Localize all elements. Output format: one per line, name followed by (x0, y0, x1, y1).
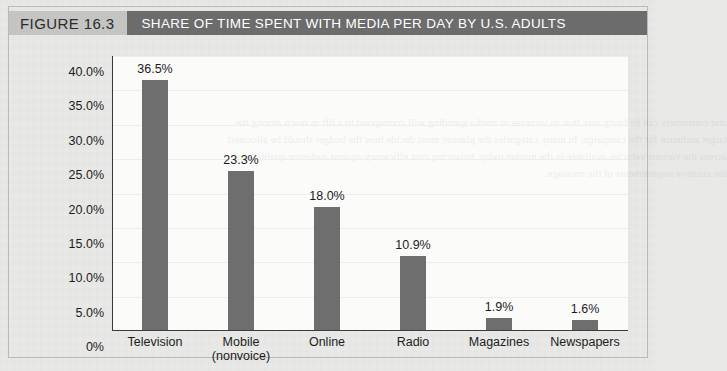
category-label: Magazines (469, 335, 529, 349)
category-label-line: Mobile (223, 335, 260, 349)
bar[interactable] (314, 207, 340, 331)
chart-area: 40.0%35.0%30.0%25.0%20.0%15.0%10.0%5.0%0… (9, 40, 647, 356)
category-label-line: Television (128, 335, 183, 349)
category-label-line: Radio (397, 335, 430, 349)
bar-value-label: 1.9% (485, 300, 514, 314)
plot-area: and consumers can be fairly sure that an… (112, 56, 628, 331)
bar-value-label: 18.0% (309, 189, 344, 203)
category-label-line: Magazines (469, 335, 529, 349)
x-axis-line (112, 330, 628, 331)
category-label: Newspapers (550, 335, 619, 349)
y-axis-tick-label: 5.0% (9, 306, 108, 320)
bar-value-label: 36.5% (137, 62, 172, 76)
bar[interactable] (400, 256, 426, 331)
y-axis-tick-label: 0% (9, 340, 108, 354)
figure-header: FIGURE 16.3 SHARE OF TIME SPENT WITH MED… (9, 11, 647, 35)
bar[interactable] (228, 171, 254, 331)
category-label: Television (128, 335, 183, 349)
category-label-line: (nonvoice) (212, 349, 270, 363)
bar-value-label: 23.3% (223, 153, 258, 167)
figure-number-badge: FIGURE 16.3 (9, 11, 127, 35)
category-label-line: Newspapers (550, 335, 619, 349)
y-axis-tick-label: 15.0% (9, 237, 108, 251)
bar-value-label: 10.9% (395, 238, 430, 252)
bars-layer: 36.5%23.3%18.0%10.9%1.9%1.6% (112, 56, 628, 331)
y-axis-tick-label: 35.0% (9, 99, 108, 113)
y-axis-tick-label: 25.0% (9, 168, 108, 182)
y-axis-tick-label: 20.0% (9, 203, 108, 217)
bar-value-label: 1.6% (571, 302, 600, 316)
figure-title: SHARE OF TIME SPENT WITH MEDIA PER DAY B… (127, 11, 647, 35)
bar[interactable] (142, 80, 168, 331)
category-label: Radio (397, 335, 430, 349)
y-axis-tick-label: 10.0% (9, 271, 108, 285)
y-axis-tick-labels: 40.0%35.0%30.0%25.0%20.0%15.0%10.0%5.0%0… (9, 56, 108, 331)
category-label: Mobile(nonvoice) (212, 335, 270, 363)
x-axis-category-labels: TelevisionMobile(nonvoice)OnlineRadioMag… (112, 335, 628, 371)
category-label: Online (309, 335, 345, 349)
y-axis-line (112, 56, 113, 331)
category-label-line: Online (309, 335, 345, 349)
y-axis-tick-label: 40.0% (9, 65, 108, 79)
y-axis-tick-label: 30.0% (9, 134, 108, 148)
